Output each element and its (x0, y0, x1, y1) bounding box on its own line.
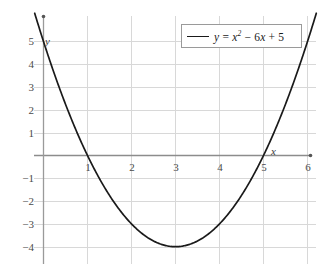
y-tick-label-4: 4 (16, 59, 34, 70)
y-tick-label-3: 3 (16, 82, 34, 93)
y-tick-label-5: 5 (16, 36, 34, 47)
x-tick-label-1: 1 (78, 162, 98, 173)
parabola-chart-figure: 5 4 3 2 1 −1 −2 −3 −4 1 2 3 4 5 6 x y y … (0, 0, 324, 276)
legend-entry-label: y = x2 − 6x + 5 (214, 29, 284, 43)
legend-line-swatch (187, 36, 209, 37)
legend-minus-six: − 6 (241, 31, 260, 43)
y-axis-label: y (45, 36, 50, 47)
legend-plus-five: + 5 (266, 31, 285, 43)
y-tick-label-neg3: −3 (10, 219, 34, 230)
y-tick-label-neg2: −2 (10, 196, 34, 207)
y-tick-label-2: 2 (16, 105, 34, 116)
x-tick-label-5: 5 (254, 162, 274, 173)
x-tick-label-3: 3 (166, 162, 186, 173)
y-tick-label-neg4: −4 (10, 242, 34, 253)
vertical-gridlines (44, 16, 308, 264)
legend-equals: = (219, 31, 232, 43)
y-tick-label-1: 1 (16, 128, 34, 139)
y-tick-label-neg1: −1 (10, 173, 34, 184)
x-tick-label-2: 2 (122, 162, 142, 173)
x-tick-label-6: 6 (298, 162, 318, 173)
x-axis-label: x (271, 146, 276, 157)
y-axis (42, 15, 46, 264)
legend: y = x2 − 6x + 5 (181, 24, 302, 48)
x-tick-label-4: 4 (210, 162, 230, 173)
